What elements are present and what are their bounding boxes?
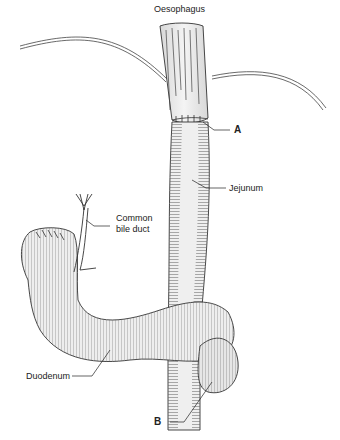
label-common-bile-duct-line2: bile duct [116,224,150,235]
label-duodenum: Duodenum [26,371,70,382]
label-jejunum: Jejunum [229,183,263,194]
label-b: B [154,416,161,427]
diaphragm-left [20,37,168,82]
label-common-bile-duct-line1: Common [116,213,153,224]
anastomosis-b [198,338,238,393]
label-oesophagus: Oesophagus [154,4,205,15]
oesophagus [160,23,208,123]
label-a: A [234,124,241,135]
diaphragm-right [212,72,326,110]
